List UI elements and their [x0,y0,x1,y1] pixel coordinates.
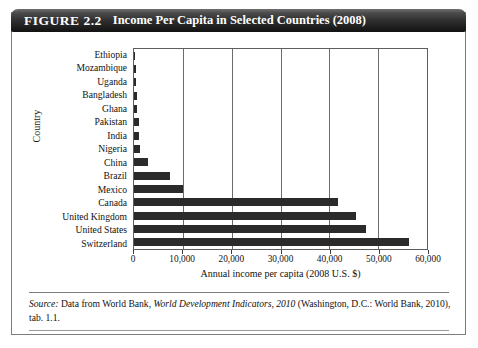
plot-area [133,48,428,250]
bar-row [134,116,427,129]
bar-row [134,62,427,75]
category-label: India [41,129,131,142]
source-note: Source: Data from World Bank, World Deve… [29,297,453,324]
category-label: Uganda [41,75,131,88]
figure-number: FIGURE 2.2 [24,13,102,29]
bar [134,158,148,166]
bar-row [134,89,427,102]
bar [134,212,356,220]
x-axis-tick-label: 60,000 [415,254,441,264]
x-axis-tick-label: 30,000 [268,254,294,264]
category-label: Mexico [41,183,131,196]
bar [134,132,139,140]
bar [134,225,366,233]
bar-row [134,209,427,222]
bar-row [134,49,427,62]
bar [134,92,137,100]
y-axis-title: Country [31,125,42,143]
bar-row [134,182,427,195]
bar-row [134,129,427,142]
bar-row [134,142,427,155]
category-label: Switzerland [41,237,131,250]
bar [134,198,338,206]
source-label: Source: [29,298,58,309]
category-label: Mozambique [41,61,131,74]
figure-title-banner: FIGURE 2.2 Income Per Capita in Selected… [11,9,466,32]
bar [134,118,139,126]
x-axis-tick-label: 20,000 [219,254,245,264]
source-publication-title: World Development Indicators, 2010 [153,298,295,309]
y-axis-category-labels: EthiopiaMozambiqueUgandaBangladeshGhanaP… [41,48,131,250]
category-label: Bangladesh [41,88,131,101]
category-label: Canada [41,196,131,209]
category-label: United Kingdom [41,210,131,223]
x-axis-title: Annual income per capita (2008 U.S. $) [133,268,428,279]
category-label: Nigeria [41,142,131,155]
x-axis-tick-label: 50,000 [366,254,392,264]
source-divider [29,292,449,293]
bar-row [134,102,427,115]
bar [134,172,170,180]
category-label: Ghana [41,102,131,115]
bar-row [134,196,427,209]
bar-series [134,49,427,249]
category-label: Brazil [41,169,131,182]
bar-row [134,76,427,89]
bar [134,52,135,60]
x-axis-tick-label: 10,000 [169,254,195,264]
bar [134,105,137,113]
bar [134,78,136,86]
bar-row [134,156,427,169]
bar-row [134,222,427,235]
bar-row [134,236,427,249]
chart-area: Country EthiopiaMozambiqueUgandaBanglade… [11,32,466,287]
category-label: United States [41,223,131,236]
x-axis-tick-label: 0 [131,254,136,264]
bar-row [134,169,427,182]
x-axis-tick-label: 40,000 [317,254,343,264]
category-label: Ethiopia [41,48,131,61]
bar [134,65,136,73]
category-label: China [41,156,131,169]
bar [134,145,140,153]
bar [134,238,409,246]
source-divider-bottom [29,330,449,331]
x-axis-tick-labels: 010,00020,00030,00040,00050,00060,000 [133,254,428,268]
category-label: Pakistan [41,115,131,128]
figure-title: Income Per Capita in Selected Countries … [113,13,366,28]
bar [134,185,183,193]
source-text-lead: Data from World Bank, [58,298,153,309]
